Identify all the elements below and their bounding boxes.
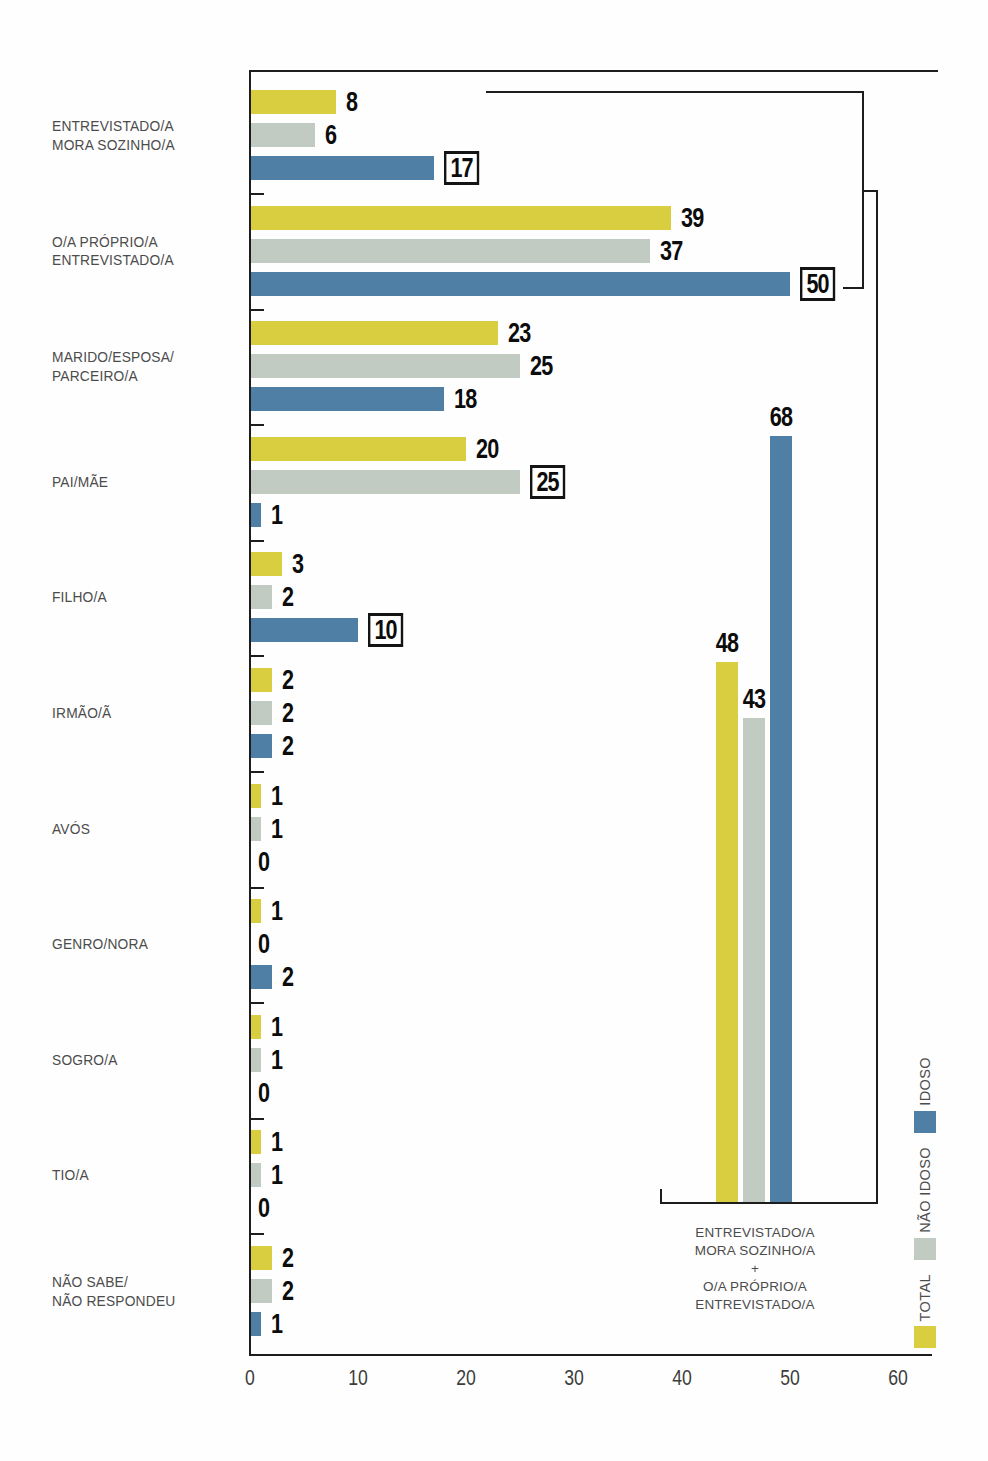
y-axis-group-tick <box>249 540 264 542</box>
bar-n-o-idoso <box>250 470 520 494</box>
bar-n-o-idoso <box>250 701 272 725</box>
bracket-horizontal <box>486 91 864 93</box>
value-label: 2 <box>282 699 293 727</box>
x-axis-tick-label: 50 <box>765 1366 814 1391</box>
value-label: 2 <box>282 1244 293 1272</box>
inset-caption-line: ENTREVISTADO/A <box>645 1224 865 1242</box>
bar-n-o-idoso <box>250 585 272 609</box>
y-axis-group-tick <box>249 309 264 311</box>
value-label: 2 <box>282 1277 293 1305</box>
y-axis-group-tick <box>249 1002 264 1004</box>
inset-bar-n-o-idoso <box>743 718 765 1202</box>
value-label: 1 <box>271 1310 282 1338</box>
y-axis-group-tick <box>249 771 264 773</box>
value-label: 1 <box>271 1046 282 1074</box>
y-axis-group-tick <box>249 887 264 889</box>
bar-idoso <box>250 618 358 642</box>
value-label: 0 <box>258 1194 269 1222</box>
bar-idoso <box>250 965 272 989</box>
category-label-line: SOGRO/A <box>52 1051 233 1070</box>
legend-label-idoso: IDOSO <box>917 1057 933 1106</box>
legend-label-total: TOTAL <box>917 1274 933 1321</box>
legend-item-idoso: IDOSO <box>914 1057 936 1133</box>
inset-baseline-upturn <box>660 1189 662 1202</box>
category-label: TIO/A <box>52 1166 233 1185</box>
category-label-line: MORA SOZINHO/A <box>52 135 233 154</box>
y-axis-group-tick <box>249 1233 264 1235</box>
x-axis-line <box>249 1354 932 1356</box>
inset-caption-line: O/A PRÓPRIO/A <box>645 1278 865 1296</box>
bar-total <box>250 206 671 230</box>
value-label: 2 <box>282 732 293 760</box>
value-label: 0 <box>258 848 269 876</box>
bar-n-o-idoso <box>250 1048 261 1072</box>
category-label: ENTREVISTADO/AMORA SOZINHO/A <box>52 117 233 154</box>
category-label-line: ENTREVISTADO/A <box>52 251 233 270</box>
connector-vertical <box>876 190 878 1204</box>
bar-idoso <box>250 387 444 411</box>
value-label: 1 <box>271 1013 282 1041</box>
legend-swatch-idoso <box>914 1111 936 1133</box>
bar-total <box>250 1246 272 1270</box>
value-label: 23 <box>508 319 530 347</box>
bar-n-o-idoso <box>250 239 650 263</box>
inset-value-label: 68 <box>757 403 805 431</box>
value-label: 10 <box>368 613 403 647</box>
x-axis-tick-label: 0 <box>225 1366 274 1391</box>
value-label: 3 <box>292 550 303 578</box>
bar-total <box>250 437 466 461</box>
legend-swatch-nao-idoso <box>914 1238 936 1260</box>
bar-total <box>250 668 272 692</box>
value-label: 17 <box>444 151 479 185</box>
category-label-line: O/A PRÓPRIO/A <box>52 232 233 251</box>
inset-caption-line: MORA SOZINHO/A <box>645 1242 865 1260</box>
value-label: 39 <box>681 204 703 232</box>
x-axis-tick-label: 10 <box>333 1366 382 1391</box>
category-label: GENRO/NORA <box>52 935 233 954</box>
value-label: 2 <box>282 963 293 991</box>
value-label: 2 <box>282 666 293 694</box>
legend-swatch-total <box>914 1326 936 1348</box>
inset-bar-total <box>716 662 738 1202</box>
value-label: 1 <box>271 1128 282 1156</box>
category-label: IRMÃO/Ã <box>52 704 233 723</box>
bar-idoso <box>250 272 790 296</box>
value-label: 6 <box>325 121 336 149</box>
inset-caption-plus: + <box>645 1260 865 1278</box>
category-label-line: PAI/MÃE <box>52 473 233 492</box>
bar-idoso <box>250 1312 261 1336</box>
category-label: NÃO SABE/NÃO RESPONDEU <box>52 1273 233 1310</box>
value-label: 8 <box>346 88 357 116</box>
value-label: 2 <box>282 583 293 611</box>
category-label: AVÓS <box>52 819 233 838</box>
category-label: FILHO/A <box>52 588 233 607</box>
bar-idoso <box>250 156 434 180</box>
inset-caption: ENTREVISTADO/A MORA SOZINHO/A + O/A PRÓP… <box>645 1224 865 1314</box>
category-label-line: IRMÃO/Ã <box>52 704 233 723</box>
legend: IDOSO NÃO IDOSO TOTAL <box>903 1008 947 1348</box>
legend-item-nao-idoso: NÃO IDOSO <box>914 1147 936 1260</box>
category-label: SOGRO/A <box>52 1051 233 1070</box>
legend-label-nao-idoso: NÃO IDOSO <box>917 1147 933 1233</box>
plot-top-line <box>249 70 938 72</box>
y-axis-line <box>249 70 251 1356</box>
bar-total <box>250 321 498 345</box>
category-label: PAI/MÃE <box>52 473 233 492</box>
y-axis-group-tick <box>249 1118 264 1120</box>
value-label: 50 <box>800 267 835 301</box>
category-label-line: NÃO SABE/ <box>52 1273 233 1292</box>
bar-idoso <box>250 734 272 758</box>
value-label: 0 <box>258 930 269 958</box>
bar-total <box>250 1130 261 1154</box>
value-label: 0 <box>258 1079 269 1107</box>
inset-value-label: 48 <box>703 629 751 657</box>
bar-total <box>250 90 336 114</box>
value-label: 37 <box>660 237 682 265</box>
inset-bar-idoso <box>770 436 792 1202</box>
y-axis-group-tick <box>249 655 264 657</box>
value-label: 25 <box>530 465 565 499</box>
x-axis-tick-label: 40 <box>657 1366 706 1391</box>
bar-total <box>250 552 282 576</box>
y-axis-group-tick <box>249 424 264 426</box>
value-label: 25 <box>530 352 552 380</box>
